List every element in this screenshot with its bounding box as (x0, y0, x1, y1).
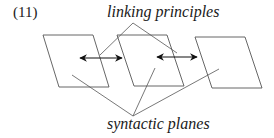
top-pointer-line (133, 23, 177, 53)
plane-1 (43, 35, 109, 87)
bottom-pointer-line (133, 69, 219, 116)
plane-3 (195, 37, 262, 88)
syntactic-planes-group (43, 35, 262, 88)
planes-diagram (0, 0, 274, 138)
bottom-pointer-line (72, 75, 133, 116)
linking-arrows-group (80, 57, 197, 58)
top-pointer-line (100, 23, 133, 55)
bottom-pointer-line (133, 68, 155, 116)
